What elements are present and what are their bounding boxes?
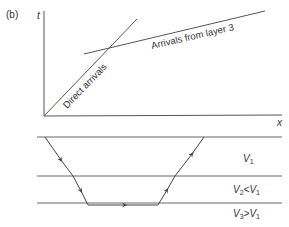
direct-arrivals-label: Direct arrivals (61, 61, 109, 111)
layer3-arrivals-line (84, 11, 265, 54)
layer-1-label: V1 (243, 153, 254, 165)
t-axis-label: t (37, 10, 41, 21)
layer3-arrivals-label: Arrivals from layer 3 (150, 21, 235, 51)
time-distance-graph: t x Direct arrivals Arrivals from layer … (37, 10, 283, 128)
x-axis (44, 115, 282, 116)
layer-model: V1 V2<V1 V3>V1 (37, 137, 282, 220)
panel-label: (b) (6, 9, 18, 20)
diagram-svg: (b) t x Direct arrivals Arrivals from la… (0, 0, 289, 227)
seismic-refraction-diagram: (b) t x Direct arrivals Arrivals from la… (0, 0, 289, 227)
ray-path (45, 137, 204, 205)
direct-arrivals-line (44, 19, 137, 116)
x-axis-label: x (276, 117, 283, 128)
layer-3-label: V3>V1 (233, 208, 260, 220)
layer-2-label: V2<V1 (233, 184, 260, 196)
